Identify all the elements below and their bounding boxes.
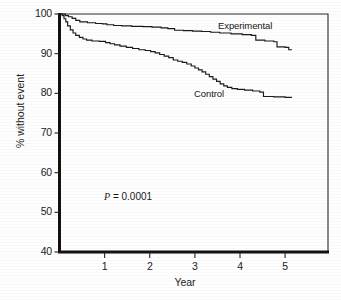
y-tick-label: 100: [16, 7, 52, 19]
x-tick-label: 4: [225, 260, 255, 272]
x-tick-label: 5: [270, 260, 300, 272]
x-axis-title: Year: [155, 276, 215, 288]
x-tick-label: 2: [135, 260, 165, 272]
p-value-annotation: P = 0.0001: [104, 191, 152, 202]
survival-chart-figure: 405060708090100 12345 % without event Ye…: [0, 0, 341, 300]
x-tick-label: 3: [180, 260, 210, 272]
x-tick-label: 1: [90, 260, 120, 272]
series-label-experimental: Experimental: [218, 20, 272, 31]
p-value-text: = 0.0001: [110, 191, 152, 202]
y-axis-title: % without event: [14, 51, 26, 171]
y-tick-label: 50: [16, 205, 52, 217]
plot-frame-border: [59, 14, 328, 252]
y-tick-label: 40: [16, 245, 52, 257]
series-label-control: Control: [194, 88, 224, 99]
